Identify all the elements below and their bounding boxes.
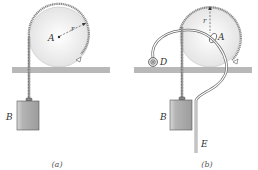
label-b-reel: D: [159, 57, 167, 67]
ground-surface-b: [134, 67, 252, 73]
label-b-center: A: [217, 32, 225, 42]
label-a-center: A: [47, 33, 55, 43]
reel-d: [149, 58, 158, 67]
caption-a: (a): [51, 160, 62, 169]
label-b-hose-end: E: [200, 139, 208, 149]
block-b-b: [170, 100, 192, 130]
label-b-block: B: [159, 112, 167, 122]
rope-a: [28, 37, 30, 99]
hook-b: [179, 97, 185, 100]
caption-b: (b): [201, 160, 212, 169]
label-a-block: B: [5, 112, 13, 122]
ground-surface: [12, 67, 110, 73]
center-point: [58, 36, 60, 38]
hook: [26, 98, 32, 101]
rotation-arrow-icon-b: [233, 59, 238, 64]
panel-a: A r B (a): [5, 4, 110, 169]
rope-b: [181, 27, 183, 99]
panel-b: A r D B E (b): [134, 6, 252, 169]
block-b-a: [17, 101, 39, 130]
physics-diagram: A r B (a): [0, 0, 258, 170]
disk-a: [29, 4, 89, 67]
